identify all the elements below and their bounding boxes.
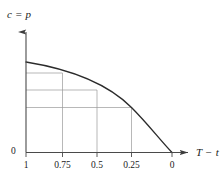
plot-canvas (0, 0, 223, 185)
x-tick-label-075: 0.75 (47, 160, 78, 170)
x-tick-label-025: 0.25 (116, 160, 147, 170)
horizontal-gridlines (26, 73, 132, 108)
x-axis-ticks (26, 153, 172, 158)
x-tick-label-1: 1 (16, 160, 36, 170)
option-value-figure: c = p T − t 0 1 0.75 0.5 0.25 0 (0, 0, 223, 185)
vertical-gridlines (63, 73, 132, 153)
y-origin-label: 0 (11, 146, 16, 156)
x-tick-label-0: 0 (162, 160, 182, 170)
x-axis-label: T − t (196, 146, 219, 158)
y-axis-label: c = p (7, 8, 31, 20)
x-tick-label-05: 0.5 (84, 160, 110, 170)
